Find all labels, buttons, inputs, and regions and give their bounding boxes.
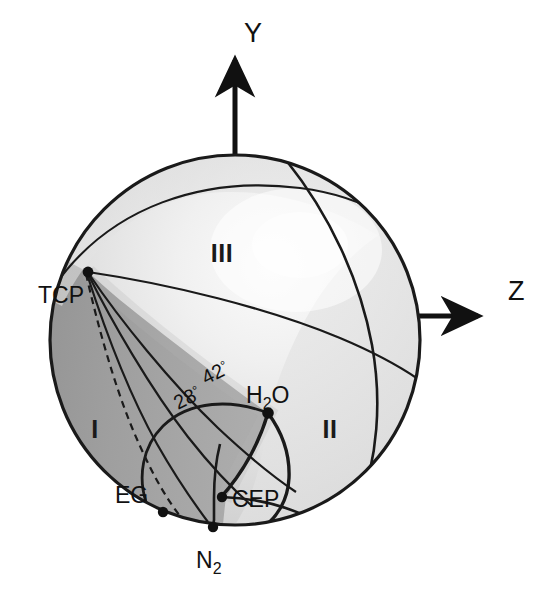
tcp-label: TCP (38, 282, 84, 308)
tcp-dot (83, 267, 94, 278)
z-axis-label: Z (508, 276, 525, 306)
eg-label: EG (115, 482, 148, 508)
h2o-label-o: O (272, 382, 290, 408)
region-label-1: I (91, 415, 98, 443)
cep-label: CEP (232, 486, 279, 512)
region-label-2: II (323, 415, 338, 443)
specular-core (252, 212, 348, 278)
eg-dot (158, 507, 168, 517)
n2-label-sub: 2 (213, 560, 222, 577)
n2-dot (208, 522, 218, 532)
sphere-phase-diagram: Y Z III I II TCP H2O EG CEP N2 42° 28° (0, 0, 537, 592)
svg-text:N2: N2 (196, 547, 222, 577)
h2o-label-sub: 2 (263, 395, 272, 412)
diagram-canvas: Y Z III I II TCP H2O EG CEP N2 42° 28° (0, 0, 537, 592)
n2-label-n: N (196, 547, 213, 573)
y-axis-label: Y (244, 18, 262, 48)
cep-dot (217, 492, 227, 502)
region-label-3: III (211, 239, 233, 267)
n2-label: N2 (196, 547, 222, 577)
h2o-label-h: H (246, 382, 263, 408)
